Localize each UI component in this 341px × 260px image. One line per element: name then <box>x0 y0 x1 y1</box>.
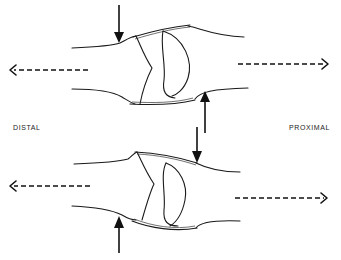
bottom-traction-arrow-left <box>10 181 90 191</box>
proximal-label: PROXIMAL <box>289 124 330 131</box>
top-force-arrow-down <box>114 5 124 43</box>
bottom-capsule-lower <box>132 221 197 230</box>
bottom-capsule-lower-inner <box>134 219 195 228</box>
bottom-joint <box>10 127 327 253</box>
top-distal-bone-lower-edge <box>72 89 135 104</box>
distal-label: DISTAL <box>13 124 41 131</box>
top-traction-arrow-left <box>10 65 88 75</box>
bottom-force-arrow-up <box>114 216 124 253</box>
top-joint <box>10 5 328 133</box>
top-distal-bone-articular-end <box>136 36 152 104</box>
bottom-proximal-bone-head-convex <box>166 163 186 226</box>
bottom-proximal-bone-upper-edge <box>196 163 240 172</box>
bottom-distal-bone-lower-edge <box>72 206 136 220</box>
bottom-proximal-bone-head <box>163 163 178 226</box>
bottom-proximal-bone-lower-edge <box>196 221 240 228</box>
top-traction-arrow-right <box>238 59 328 69</box>
top-proximal-bone-head <box>162 31 175 98</box>
top-proximal-bone-upper-edge <box>188 26 244 37</box>
top-proximal-bone-head-convex <box>163 31 189 96</box>
bottom-distal-bone-articular-end <box>137 152 154 220</box>
top-distal-bone-upper-edge <box>72 36 136 48</box>
top-force-arrow-up <box>200 91 210 133</box>
bottom-traction-arrow-right <box>235 193 327 203</box>
bottom-distal-bone-upper-edge <box>74 152 137 164</box>
top-capsule-upper <box>133 25 190 37</box>
bottom-force-arrow-down <box>192 127 202 163</box>
